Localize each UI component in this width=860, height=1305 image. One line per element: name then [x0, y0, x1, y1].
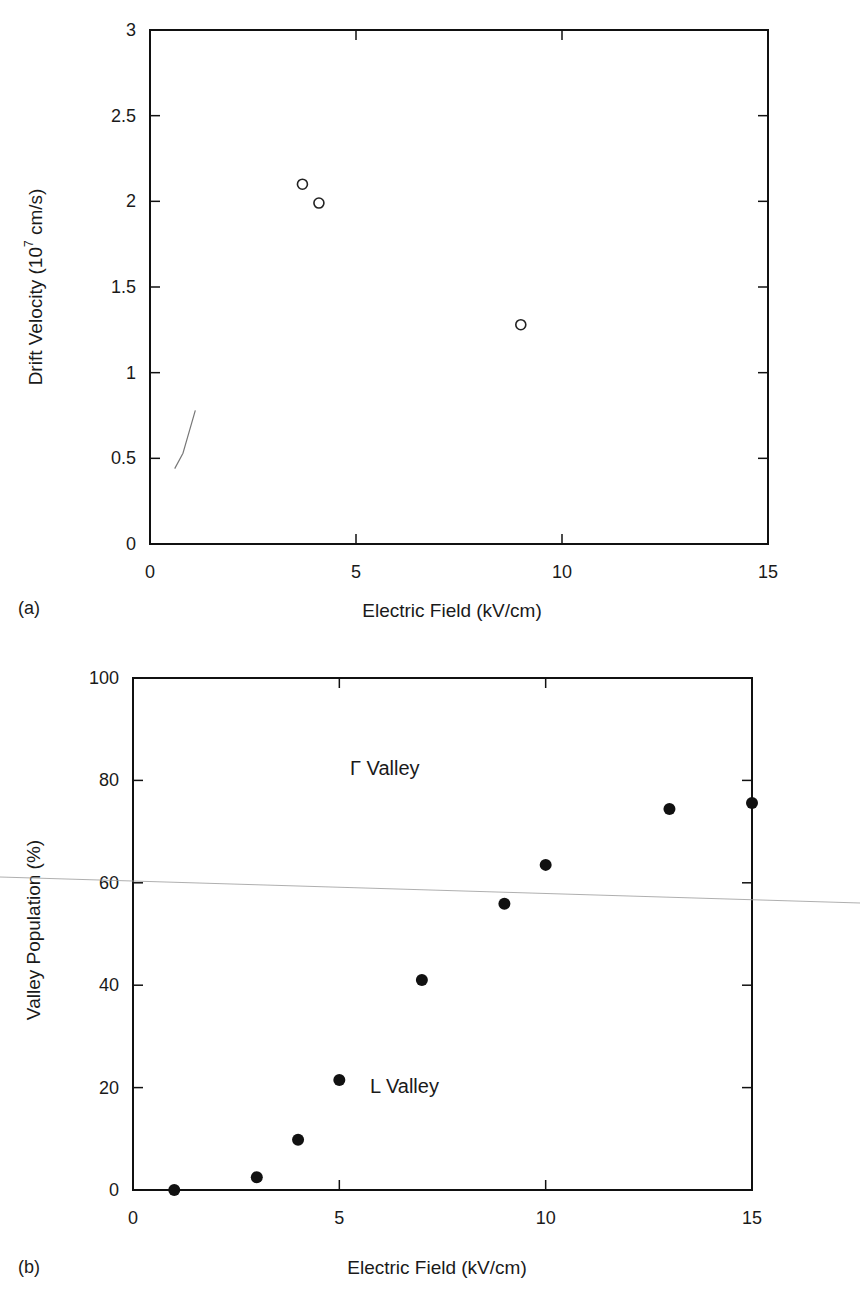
y-tick-label: 20: [99, 1078, 119, 1098]
panel-label-a: (a): [18, 598, 40, 618]
filled-circle-marker: [746, 797, 758, 809]
y-axis-label-b: Valley Population (%): [23, 840, 44, 1020]
x-tick-label: 15: [742, 1208, 762, 1228]
y-tick-label: 1: [126, 363, 136, 383]
data-points-b: [168, 797, 758, 1196]
filled-circle-marker: [540, 859, 552, 871]
filled-circle-marker: [333, 1074, 345, 1086]
panel-label-b: (b): [18, 1257, 40, 1277]
filled-circle-marker: [251, 1171, 263, 1183]
data-points-a: [175, 179, 526, 468]
y-tick-label: 0: [126, 534, 136, 554]
x-tick-label: 15: [758, 562, 778, 582]
chart-b: 051015020406080100 Γ Valley L Valley Ele…: [18, 668, 762, 1278]
y-axis-label-a: Drift Velocity (107 cm/s): [22, 189, 46, 386]
axis-ticks-a: [150, 30, 768, 544]
y-tick-label: 2: [126, 191, 136, 211]
y-tick-label: 40: [99, 975, 119, 995]
filled-circle-marker: [663, 803, 675, 815]
filled-circle-marker: [498, 898, 510, 910]
annotation-gamma-valley: Γ Valley: [350, 757, 420, 779]
plot-frame-b: [133, 678, 752, 1190]
x-tick-label: 0: [145, 562, 155, 582]
open-circle-marker: [297, 179, 307, 189]
filled-circle-marker: [416, 974, 428, 986]
tick-labels-a: 05101500.511.522.53: [111, 20, 778, 582]
chart-a: 05101500.511.522.53 Electric Field (kV/c…: [18, 20, 778, 621]
x-tick-label: 5: [334, 1208, 344, 1228]
plot-frame-a: [150, 30, 768, 544]
y-tick-label: 60: [99, 873, 119, 893]
filled-circle-marker: [292, 1134, 304, 1146]
x-tick-label: 0: [128, 1208, 138, 1228]
x-tick-label: 10: [552, 562, 572, 582]
figure-canvas: 05101500.511.522.53 Electric Field (kV/c…: [0, 0, 860, 1305]
x-tick-label: 10: [536, 1208, 556, 1228]
x-axis-label-a: Electric Field (kV/cm): [362, 600, 541, 621]
x-tick-label: 5: [351, 562, 361, 582]
y-tick-label: 1.5: [111, 277, 136, 297]
y-tick-label: 0: [109, 1180, 119, 1200]
open-circle-marker: [314, 198, 324, 208]
x-axis-label-b: Electric Field (kV/cm): [347, 1257, 526, 1278]
y-tick-label: 100: [89, 668, 119, 688]
y-tick-label: 80: [99, 770, 119, 790]
annotation-l-valley: L Valley: [370, 1075, 439, 1097]
open-circle-marker: [516, 320, 526, 330]
y-tick-label: 0.5: [111, 448, 136, 468]
tick-labels-b: 051015020406080100: [89, 668, 762, 1228]
filled-circle-marker: [168, 1184, 180, 1196]
axis-ticks-b: [133, 678, 752, 1190]
scan-artifact-line: [0, 877, 860, 903]
series-line: [175, 410, 196, 468]
y-tick-label: 2.5: [111, 106, 136, 126]
y-tick-label: 3: [126, 20, 136, 40]
